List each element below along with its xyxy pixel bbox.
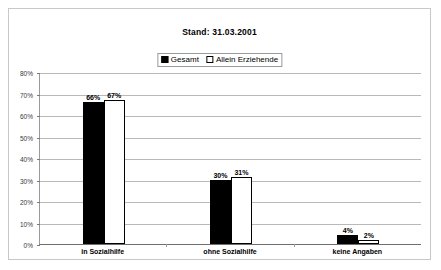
- chart-legend: Gesamt Allein Erziehende: [157, 53, 282, 67]
- y-tick-label: 50%: [20, 134, 33, 141]
- y-tick-label: 70%: [20, 91, 33, 98]
- bar-value-label: 4%: [343, 227, 353, 234]
- bars-layer: 66%67%30%31%4%2%: [40, 73, 421, 244]
- plot-wrapper: 80%70%60%50%40%30%20%10%0% 66%67%30%31%4…: [39, 73, 421, 245]
- bar-value-label: 30%: [213, 172, 227, 179]
- bar-group: 66%67%: [40, 73, 167, 244]
- legend-swatch-icon-gesamt: [161, 56, 168, 63]
- y-tick-mark: [37, 245, 40, 246]
- x-axis-tick-labels: in Sozialhilfeohne Sozialhilfekeine Anga…: [39, 248, 421, 262]
- bar-value-label: 31%: [234, 169, 248, 176]
- bar-gesamt[interactable]: 4%: [337, 235, 358, 244]
- bar-value-label: 2%: [364, 232, 374, 239]
- y-tick-label: 80%: [20, 70, 33, 77]
- legend-label-gesamt: Gesamt: [171, 55, 199, 64]
- y-tick-label: 40%: [20, 156, 33, 163]
- chart-frame: Stand: 31.03.2001 Gesamt Allein Erziehen…: [8, 8, 431, 260]
- bar-group: 30%31%: [167, 73, 294, 244]
- legend-entry-allein-erziehende: Allein Erziehende: [206, 55, 278, 64]
- y-tick-label: 60%: [20, 113, 33, 120]
- y-tick-label: 20%: [20, 199, 33, 206]
- y-tick-label: 30%: [20, 177, 33, 184]
- bar-group: 4%2%: [295, 73, 422, 244]
- x-tick-label: in Sozialhilfe: [81, 248, 124, 255]
- x-axis-separator: [294, 244, 295, 247]
- bar-gesamt[interactable]: 30%: [210, 180, 231, 245]
- legend-label-allein-erziehende: Allein Erziehende: [216, 55, 278, 64]
- bar-allein-erziehende[interactable]: 67%: [104, 100, 125, 244]
- x-tick-label: ohne Sozialhilfe: [203, 248, 256, 255]
- legend-swatch-icon-allein-erziehende: [206, 56, 213, 63]
- bar-value-label: 66%: [86, 94, 100, 101]
- plot-area: 66%67%30%31%4%2%: [39, 73, 421, 245]
- bar-value-label: 67%: [107, 92, 121, 99]
- y-tick-label: 0%: [24, 242, 33, 249]
- x-tick-label: keine Angaben: [333, 248, 383, 255]
- bar-allein-erziehende[interactable]: 2%: [358, 240, 379, 244]
- legend-entry-gesamt: Gesamt: [161, 55, 199, 64]
- y-tick-label: 10%: [20, 220, 33, 227]
- y-axis-tick-labels: 80%70%60%50%40%30%20%10%0%: [11, 73, 37, 245]
- bar-allein-erziehende[interactable]: 31%: [231, 177, 252, 244]
- x-axis-separator: [166, 244, 167, 247]
- bar-gesamt[interactable]: 66%: [83, 102, 104, 244]
- chart-title: Stand: 31.03.2001: [9, 27, 430, 37]
